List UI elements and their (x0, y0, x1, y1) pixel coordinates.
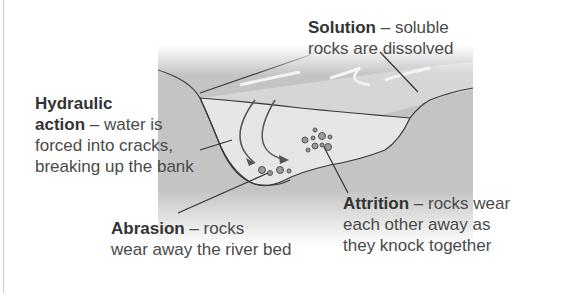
attrition-term: Attrition (343, 194, 409, 213)
attrition-label: Attrition – rocks wear each other away a… (343, 193, 510, 256)
solution-term: Solution (308, 18, 376, 37)
hydraulic-action-label: Hydraulic action – water is forced into … (35, 93, 194, 177)
abrasion-label: Abrasion – rocks wear away the river bed (111, 218, 291, 260)
hydraulic-term: Hydraulic (35, 94, 112, 113)
abrasion-term: Abrasion (111, 219, 185, 238)
solution-label: Solution – soluble rocks are dissolved (308, 17, 454, 59)
